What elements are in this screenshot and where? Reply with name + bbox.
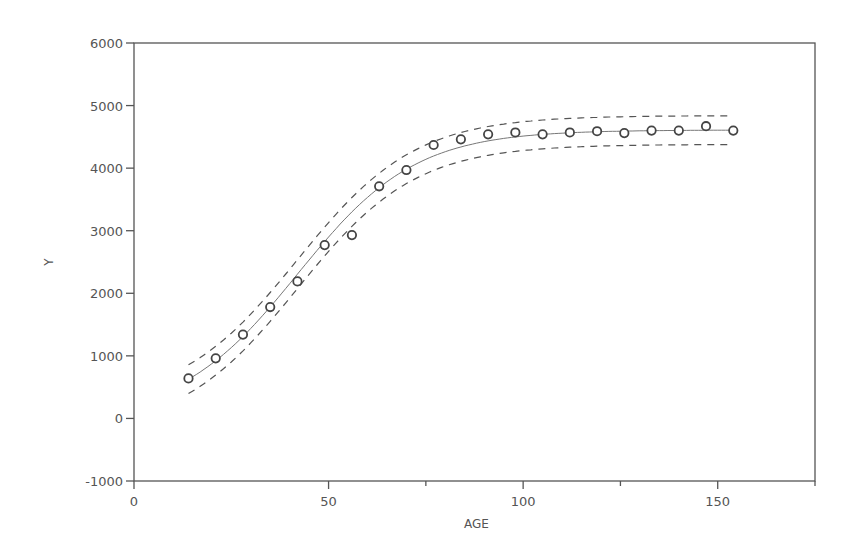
data-point [375,182,383,190]
data-point [538,130,546,138]
confidence-bands [189,116,734,394]
data-point [675,126,683,134]
fitted-line [189,130,734,379]
data-point [702,122,710,130]
x-tick-label: 0 [130,494,138,509]
y-tick-label: 4000 [90,161,123,176]
y-tick-label: 1000 [90,349,123,364]
y-tick-label: 5000 [90,99,123,114]
y-tick-label: 0 [115,411,123,426]
data-point [320,241,328,249]
data-point [484,130,492,138]
lower-band-line [189,145,734,394]
data-point [566,128,574,136]
data-point [266,303,274,311]
observed-points [184,122,737,383]
data-point [348,231,356,239]
x-tick-label: 50 [320,494,337,509]
y-tick-label: -1000 [85,474,123,489]
plot-frame [134,43,815,481]
data-point [402,166,410,174]
data-point [457,135,465,143]
x-axis: 050100150 [130,481,815,509]
data-point [293,277,301,285]
data-point [429,141,437,149]
x-axis-title: AGE [464,517,489,531]
upper-band-line [189,116,734,365]
y-axis-title: Y [42,258,56,267]
data-point [620,129,628,137]
x-tick-label: 100 [511,494,536,509]
data-point [593,127,601,135]
y-tick-label: 2000 [90,286,123,301]
chart-canvas: -10000100020003000400050006000 050100150… [0,0,850,560]
plot-border [134,43,815,481]
fitted-curve [189,130,734,379]
data-point [647,126,655,134]
data-point [511,128,519,136]
x-tick-label: 150 [705,494,730,509]
y-tick-label: 6000 [90,36,123,51]
y-tick-label: 3000 [90,224,123,239]
data-point [212,354,220,362]
y-axis: -10000100020003000400050006000 [85,36,134,489]
data-point [239,330,247,338]
data-point [729,126,737,134]
data-point [184,374,192,382]
